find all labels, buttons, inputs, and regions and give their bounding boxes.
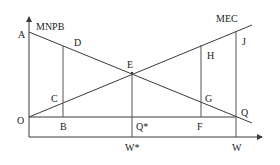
point-label-f: F <box>197 121 203 132</box>
point-label-h: H <box>207 50 214 61</box>
axis-label-w: W <box>232 142 242 153</box>
externality-diagram: MNPB MEC A D E H J C G O Q B Q* F W* W <box>0 0 280 165</box>
mnpb-curve <box>29 32 252 123</box>
point-label-d: D <box>74 37 81 48</box>
point-label-o: O <box>17 115 24 126</box>
point-label-j: J <box>242 36 246 47</box>
equilibrium-point-e <box>131 72 133 74</box>
mec-curve <box>29 25 252 117</box>
curve-label-mnpb: MNPB <box>36 21 65 32</box>
point-label-c: C <box>51 93 58 104</box>
axis-label-w-star: W* <box>125 142 139 153</box>
point-label-g: G <box>205 93 212 104</box>
point-label-q-star: Q* <box>136 121 148 132</box>
curve-label-mec: MEC <box>216 13 238 24</box>
point-label-b: B <box>60 121 67 132</box>
point-label-a: A <box>18 29 26 40</box>
point-label-q: Q <box>241 107 249 118</box>
point-label-e: E <box>127 59 133 70</box>
